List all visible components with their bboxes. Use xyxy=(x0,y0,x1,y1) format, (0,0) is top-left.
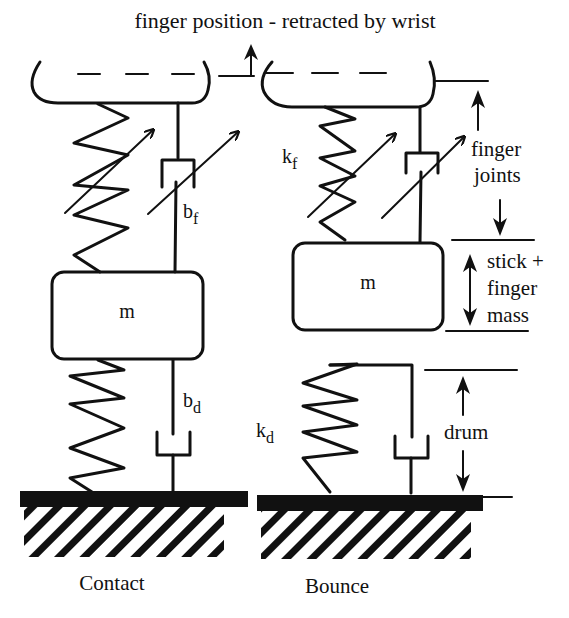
caption-bounce: Bounce xyxy=(305,574,369,598)
variable-arrow-icon xyxy=(382,137,464,218)
finger-damper-left xyxy=(162,160,194,187)
finger-spring-right xyxy=(320,107,355,240)
mass-label: m xyxy=(360,271,376,293)
drum-spring-label: kd xyxy=(256,419,274,446)
drum-spring-left xyxy=(70,360,124,492)
ground-plate-right xyxy=(257,495,483,511)
bounce-panel: kf m fingerjoints stick +fingermass kd xyxy=(256,62,544,598)
drum-label: drum xyxy=(444,420,488,444)
retraction-indicator xyxy=(219,44,258,76)
mass-label: m xyxy=(119,300,135,322)
finger-body-right xyxy=(262,62,434,107)
drum-damper-label: bd xyxy=(183,389,201,416)
drum-damper-right xyxy=(395,436,428,458)
ground-hatch-right xyxy=(261,511,471,559)
finger-spring-left xyxy=(74,104,128,272)
finger-joints-label: fingerjoints xyxy=(471,137,521,187)
drum-damper-left xyxy=(157,432,190,455)
contact-panel: bf m bd Contact xyxy=(20,62,248,595)
caption-contact: Contact xyxy=(79,571,144,595)
drum-spring-right xyxy=(303,364,357,492)
finger-body-left xyxy=(32,62,209,103)
stick-mass-label: stick +fingermass xyxy=(487,249,544,327)
ground-plate-left xyxy=(20,491,248,507)
mass-spring-damper-diagram: finger position - retracted by wrist bf … xyxy=(0,0,569,618)
finger-damper-right xyxy=(406,153,438,173)
finger-damper-label: bf xyxy=(183,200,199,227)
diagram-title: finger position - retracted by wrist xyxy=(134,8,435,33)
ground-hatch-left xyxy=(24,507,224,557)
finger-spring-label: kf xyxy=(282,145,298,172)
